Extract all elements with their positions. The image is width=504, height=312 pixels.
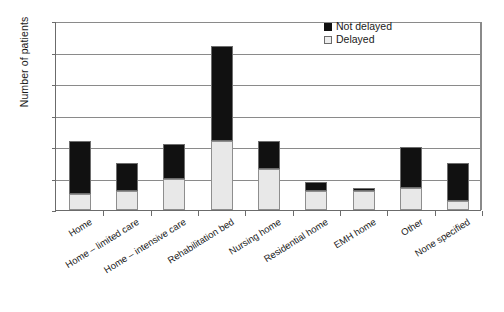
bar-segment-not-delayed bbox=[163, 144, 185, 179]
x-axis-tick-mark bbox=[198, 211, 199, 216]
y-axis-title: Number of patients bbox=[18, 0, 30, 142]
bar-stack bbox=[305, 182, 327, 210]
chart-container: Number of patients 0102030405060 HomeHom… bbox=[0, 0, 504, 312]
x-axis-category-label: Nursing home bbox=[227, 216, 283, 257]
bar-series-layer bbox=[56, 22, 481, 210]
legend-item-not-delayed: Not delayed bbox=[324, 20, 392, 33]
x-axis-tick-mark bbox=[103, 211, 104, 216]
x-axis-category-label: Other bbox=[399, 216, 425, 238]
bar-stack bbox=[353, 188, 375, 210]
x-axis-category-label: Home – intensive care bbox=[102, 216, 188, 275]
bar-stack bbox=[163, 144, 185, 210]
light-square-icon bbox=[324, 36, 332, 44]
bar-stack bbox=[116, 163, 138, 210]
bar-segment-delayed bbox=[116, 191, 138, 210]
x-axis-tick-mark bbox=[387, 211, 388, 216]
bar-stack bbox=[400, 147, 422, 210]
x-axis-category-label: Home – limited care bbox=[63, 216, 140, 270]
bar-stack bbox=[258, 141, 280, 210]
bar-segment-not-delayed bbox=[447, 163, 469, 201]
bar-segment-delayed bbox=[69, 194, 91, 210]
legend-label-delayed: Delayed bbox=[336, 33, 375, 46]
legend-label-not-delayed: Not delayed bbox=[336, 20, 392, 33]
bar-segment-delayed bbox=[447, 201, 469, 210]
bar-segment-not-delayed bbox=[211, 46, 233, 141]
x-axis-tick-mark bbox=[482, 211, 483, 216]
bar-segment-not-delayed bbox=[305, 182, 327, 191]
legend-item-delayed: Delayed bbox=[324, 33, 392, 46]
bar-segment-delayed bbox=[211, 141, 233, 210]
x-axis-category-label: EMH home bbox=[331, 216, 377, 251]
bar-segment-delayed bbox=[400, 188, 422, 210]
bar-stack bbox=[69, 141, 91, 210]
bar-segment-not-delayed bbox=[69, 141, 91, 195]
bar-segment-not-delayed bbox=[400, 147, 422, 188]
chart-legend: Not delayed Delayed bbox=[324, 20, 392, 46]
x-axis-category-label: Rehabilitation bed bbox=[165, 216, 235, 266]
bar-stack bbox=[447, 163, 469, 210]
x-axis-tick-mark bbox=[245, 211, 246, 216]
bar-segment-delayed bbox=[353, 191, 375, 210]
y-axis-tick-mark bbox=[52, 211, 56, 212]
x-axis-tick-mark bbox=[151, 211, 152, 216]
bar-stack bbox=[211, 46, 233, 210]
x-axis-category-label: Residential home bbox=[262, 216, 330, 264]
x-axis-tick-mark bbox=[340, 211, 341, 216]
bar-segment-not-delayed bbox=[258, 141, 280, 169]
bar-segment-not-delayed bbox=[116, 163, 138, 191]
bar-segment-delayed bbox=[258, 169, 280, 210]
bar-segment-delayed bbox=[163, 179, 185, 211]
x-axis-tick-mark bbox=[435, 211, 436, 216]
x-axis-category-label: None specified bbox=[413, 216, 472, 259]
bar-segment-delayed bbox=[305, 191, 327, 210]
x-axis-tick-mark bbox=[293, 211, 294, 216]
x-axis-category-label: Home bbox=[66, 216, 93, 239]
plot-area bbox=[55, 22, 481, 211]
black-square-icon bbox=[324, 23, 332, 31]
